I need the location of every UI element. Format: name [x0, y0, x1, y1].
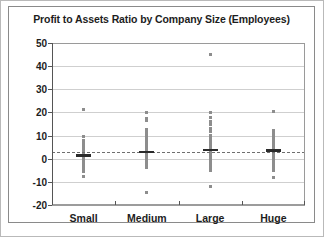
y-tick-label: 50	[36, 38, 47, 49]
y-tick-label: -20	[33, 200, 47, 211]
y-tick-label: 0	[41, 153, 47, 164]
chart-panel: Profit to Assets Ratio by Company Size (…	[8, 6, 315, 223]
mean-marker-medium	[139, 151, 154, 154]
y-tick-label: -10	[33, 176, 47, 187]
mean-marker-huge	[266, 149, 281, 152]
x-category-label-small: Small	[70, 212, 98, 224]
mean-marker-large	[203, 149, 218, 152]
data-point	[209, 123, 212, 126]
y-tick-label: 20	[36, 107, 47, 118]
data-point	[82, 108, 85, 111]
x-category-label-huge: Huge	[260, 212, 286, 224]
gridline	[52, 89, 305, 90]
x-tick-mark	[179, 201, 180, 205]
plot-area: 50403020100-10-20 SmallMediumLargeHuge	[52, 43, 305, 205]
reference-line	[52, 152, 305, 153]
y-tick-label: 40	[36, 61, 47, 72]
x-tick-mark	[52, 201, 53, 205]
chart-title: Profit to Assets Ratio by Company Size (…	[9, 13, 314, 25]
data-point	[82, 135, 85, 138]
y-tick-label: 30	[36, 84, 47, 95]
axis-left	[52, 43, 53, 205]
data-point	[209, 169, 212, 172]
gridline	[52, 112, 305, 113]
x-tick-mark	[242, 201, 243, 205]
data-point	[145, 191, 148, 194]
x-tick-mark	[304, 201, 305, 205]
gridline	[52, 159, 305, 160]
x-category-label-large: Large	[196, 212, 225, 224]
data-point	[209, 111, 212, 114]
gridline	[52, 66, 305, 67]
data-point	[209, 185, 212, 188]
y-tick-label: 10	[36, 130, 47, 141]
gridline	[52, 182, 305, 183]
data-point	[272, 169, 275, 172]
data-point	[82, 170, 85, 173]
data-point	[272, 110, 275, 113]
gridline	[52, 136, 305, 137]
mean-marker-small	[76, 154, 91, 157]
data-point	[145, 119, 148, 122]
data-point	[82, 175, 85, 178]
x-category-label-medium: Medium	[127, 212, 167, 224]
x-tick-mark	[115, 201, 116, 205]
data-point	[272, 176, 275, 179]
data-point	[145, 111, 148, 114]
chart-screenshot: Profit to Assets Ratio by Company Size (…	[0, 0, 324, 237]
axis-right	[304, 43, 305, 205]
data-point	[145, 166, 148, 169]
plot-background	[52, 43, 305, 205]
axis-top	[52, 43, 305, 44]
data-point	[209, 53, 212, 56]
data-point	[272, 166, 275, 169]
